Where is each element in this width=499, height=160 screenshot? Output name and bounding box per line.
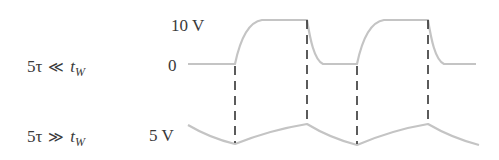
waveform-bottom bbox=[188, 124, 479, 145]
waveform-diagram bbox=[0, 0, 499, 160]
waveform-top bbox=[188, 20, 476, 64]
